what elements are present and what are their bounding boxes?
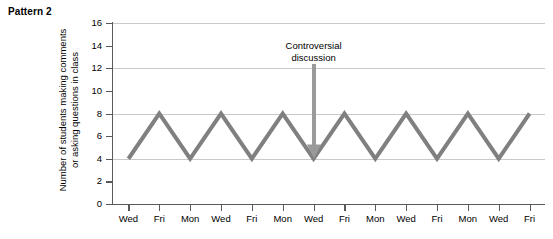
x-axis-tick (499, 205, 500, 211)
y-axis-tick (106, 136, 112, 137)
x-axis-tick-label: Fri (510, 213, 550, 224)
page-title: Pattern 2 (8, 6, 52, 17)
y-axis-tick (106, 114, 112, 115)
y-axis-tick-label: 6 (80, 130, 102, 141)
y-axis-tick (106, 181, 112, 182)
y-axis-tick-label: 2 (80, 175, 102, 186)
x-axis-tick (530, 205, 531, 211)
x-axis-tick (252, 205, 253, 211)
x-axis-tick (468, 205, 469, 211)
y-axis-tick-label: 0 (80, 198, 102, 209)
x-axis-tick (437, 205, 438, 211)
y-axis-tick (106, 159, 112, 160)
y-axis-tick-label: 14 (80, 40, 102, 51)
annotation-down-arrow-icon (305, 64, 323, 159)
y-axis-tick-label: 10 (80, 85, 102, 96)
annotation-line-1: Controversial (244, 40, 384, 52)
x-axis-tick (406, 205, 407, 211)
y-axis-label-line-1: Number of students making comments (57, 29, 69, 192)
y-axis-tick (106, 91, 112, 92)
x-axis-tick (221, 205, 222, 211)
x-axis-tick (314, 205, 315, 211)
annotation-line-2: discussion (244, 52, 384, 64)
x-axis-tick (159, 205, 160, 211)
y-axis-tick-label: 4 (80, 153, 102, 164)
y-axis-tick (106, 204, 112, 205)
x-axis-tick (190, 205, 191, 211)
x-axis-line (112, 204, 545, 205)
y-axis-tick (106, 68, 112, 69)
x-axis-tick (375, 205, 376, 211)
y-axis-tick-label: 8 (80, 108, 102, 119)
x-axis-tick (283, 205, 284, 211)
y-axis-tick (106, 23, 112, 24)
annotation-label: Controversial discussion (244, 40, 384, 64)
x-axis-tick (128, 205, 129, 211)
x-axis-tick (344, 205, 345, 211)
y-axis-tick-label: 12 (80, 62, 102, 73)
y-axis-tick-label: 16 (80, 17, 102, 28)
y-axis-tick (106, 46, 112, 47)
chart-screenshot: Pattern 2 Number of students making comm… (0, 0, 553, 239)
